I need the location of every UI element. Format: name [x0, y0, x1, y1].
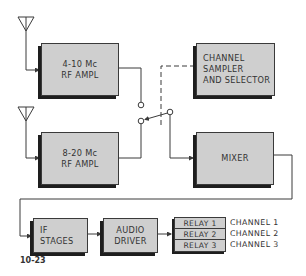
antenna-icon [18, 107, 34, 121]
block-label: MIXER [221, 153, 248, 164]
relay-2: RELAY 2 [175, 229, 225, 240]
block-label: STAGES [40, 236, 74, 247]
block-label: 4-10 Mc [63, 59, 98, 70]
block-label: AUDIO [116, 225, 144, 236]
selector-switch [138, 102, 173, 124]
rf-ampl-4-10mc-block: 4-10 Mc RF AMPL [41, 43, 119, 96]
block-label: IF [40, 225, 48, 236]
block-label: DRIVER [114, 236, 147, 247]
block-label: RF AMPL [61, 70, 98, 81]
mixer-block: MIXER [196, 132, 274, 185]
block-label: 8-20 Mc [63, 148, 98, 159]
channel-2-label: CHANNEL 2 [230, 228, 279, 239]
block-label: SAMPLER [203, 64, 243, 75]
figure-number: 10-23 [20, 256, 46, 265]
audio-driver-block: AUDIO DRIVER [103, 218, 158, 253]
relay-3: RELAY 3 [175, 240, 225, 251]
block-label: AND SELECTOR [203, 75, 270, 86]
rf-ampl-8-20mc-block: 8-20 Mc RF AMPL [41, 132, 119, 185]
channel-sampler-selector-block: CHANNEL SAMPLER AND SELECTOR [196, 43, 275, 96]
channel-1-label: CHANNEL 1 [230, 217, 279, 228]
antenna-icon [18, 17, 34, 31]
block-label: CHANNEL [203, 53, 245, 64]
if-stages-block: IF STAGES [33, 218, 88, 253]
block-label: RF AMPL [61, 159, 98, 170]
relay-1: RELAY 1 [175, 218, 225, 229]
channel-3-label: CHANNEL 3 [230, 239, 279, 250]
relay-bank: RELAY 1 RELAY 2 RELAY 3 [174, 217, 226, 252]
